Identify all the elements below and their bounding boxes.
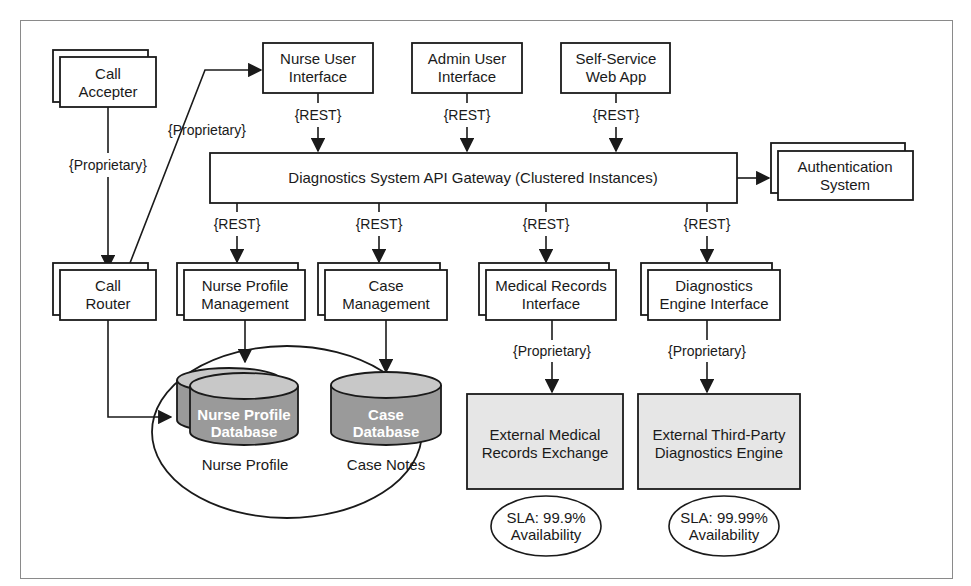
edge-label-self-service-gateway: {REST}: [593, 107, 640, 123]
svg-text:Nurse User: Nurse User: [280, 50, 356, 67]
sla-external-medical: SLA: 99.9% Availability: [491, 496, 601, 556]
edge-label-admin-ui-gateway: {REST}: [444, 107, 491, 123]
svg-text:SLA: 99.9%: SLA: 99.9%: [506, 509, 585, 526]
node-external-medical-records-exchange: External Medical Records Exchange: [467, 394, 623, 489]
svg-text:Diagnostics Engine: Diagnostics Engine: [655, 444, 783, 461]
node-nurse-profile-database: Nurse Profile Database Nurse Profile: [177, 368, 298, 473]
svg-text:Management: Management: [201, 295, 289, 312]
svg-text:Case: Case: [368, 277, 403, 294]
svg-text:Engine Interface: Engine Interface: [659, 295, 768, 312]
svg-text:Accepter: Accepter: [78, 83, 137, 100]
node-authentication-system: Authentication System: [771, 143, 913, 200]
svg-text:Call: Call: [95, 65, 121, 82]
svg-text:Admin User: Admin User: [428, 50, 506, 67]
svg-text:Self-Service: Self-Service: [576, 50, 657, 67]
sla-external-diagnostics: SLA: 99.99% Availability: [669, 496, 779, 556]
edge-label-mri-ext: {Proprietary}: [513, 343, 591, 359]
edge-label-accepter-router: {Proprietary}: [69, 157, 147, 173]
svg-text:Interface: Interface: [438, 68, 496, 85]
svg-text:External Medical: External Medical: [490, 426, 601, 443]
svg-text:Availability: Availability: [689, 526, 760, 543]
edge-router-db: [108, 320, 171, 417]
svg-text:Diagnostics System API Gateway: Diagnostics System API Gateway (Clustere…: [288, 169, 657, 186]
case-notes-caption: Case Notes: [347, 456, 425, 473]
edge-label-gateway-npm: {REST}: [214, 216, 261, 232]
svg-text:SLA: 99.99%: SLA: 99.99%: [680, 509, 768, 526]
node-nurse-profile-management: Nurse Profile Management: [177, 263, 305, 320]
architecture-diagram: {Proprietary} {Proprietary} {REST} {REST…: [0, 0, 971, 586]
node-case-management: Case Management: [318, 263, 447, 320]
node-medical-records-interface: Medical Records Interface: [479, 263, 616, 320]
node-api-gateway: Diagnostics System API Gateway (Clustere…: [210, 153, 737, 203]
node-external-diagnostics-engine: External Third-Party Diagnostics Engine: [638, 394, 800, 489]
svg-text:Router: Router: [85, 295, 130, 312]
nurse-profile-caption: Nurse Profile: [202, 456, 289, 473]
svg-text:Database: Database: [353, 423, 420, 440]
svg-text:Management: Management: [342, 295, 430, 312]
svg-text:Records Exchange: Records Exchange: [482, 444, 609, 461]
svg-text:Nurse Profile: Nurse Profile: [197, 406, 290, 423]
svg-text:Interface: Interface: [522, 295, 580, 312]
svg-text:Availability: Availability: [511, 526, 582, 543]
svg-text:External Third-Party: External Third-Party: [652, 426, 786, 443]
edge-label-nurse-ui-gateway: {REST}: [295, 107, 342, 123]
svg-text:Nurse Profile: Nurse Profile: [202, 277, 289, 294]
svg-text:System: System: [820, 176, 870, 193]
svg-text:Call: Call: [95, 277, 121, 294]
svg-text:Authentication: Authentication: [797, 158, 892, 175]
node-admin-user-interface: Admin User Interface: [412, 43, 522, 93]
node-call-router: Call Router: [53, 263, 156, 320]
edge-label-gateway-dei: {REST}: [684, 216, 731, 232]
svg-text:Diagnostics: Diagnostics: [675, 277, 753, 294]
svg-text:Medical Records: Medical Records: [495, 277, 607, 294]
svg-text:Database: Database: [211, 423, 278, 440]
edge-labels: {Proprietary} {Proprietary} {REST} {REST…: [69, 107, 746, 359]
node-call-accepter: Call Accepter: [53, 50, 156, 107]
edge-label-router-nurse-ui: {Proprietary}: [168, 122, 246, 138]
svg-text:Interface: Interface: [289, 68, 347, 85]
node-diagnostics-engine-interface: Diagnostics Engine Interface: [641, 263, 780, 320]
svg-text:Case: Case: [368, 406, 404, 423]
edge-label-gateway-case: {REST}: [356, 216, 403, 232]
svg-text:Web App: Web App: [586, 68, 647, 85]
node-self-service-web-app: Self-Service Web App: [561, 43, 670, 93]
edge-label-dei-ext: {Proprietary}: [668, 343, 746, 359]
node-case-database: Case Database Case Notes: [331, 372, 441, 473]
edge-label-gateway-mri: {REST}: [523, 216, 570, 232]
node-nurse-user-interface: Nurse User Interface: [263, 43, 373, 93]
